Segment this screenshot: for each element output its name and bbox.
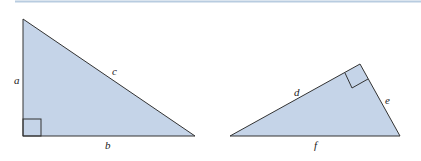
label-e: e: [385, 94, 390, 106]
label-a: a: [14, 74, 20, 86]
label-d: d: [294, 86, 300, 98]
label-c: c: [112, 65, 117, 77]
left-triangle: a b c: [14, 19, 195, 151]
label-b: b: [105, 139, 111, 151]
diagram-canvas: a b c d e f: [0, 0, 421, 161]
right-triangle: d e f: [230, 64, 400, 151]
label-f: f: [314, 139, 319, 151]
